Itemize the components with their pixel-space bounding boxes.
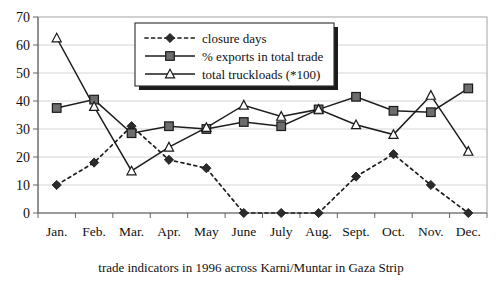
data-point (239, 118, 248, 127)
x-axis-ticks (38, 213, 487, 218)
legend-sample-marker-2 (166, 52, 175, 61)
data-point (127, 129, 136, 138)
chart-canvas: 010203040506070 Jan.Feb.Mar.Apr.MayJuneJ… (0, 0, 502, 293)
chart-legend: closure days% exports in total tradetota… (135, 23, 338, 90)
x-axis-labels: Jan.Feb.Mar.Apr.MayJuneJulyAug.Sept.Oct.… (46, 224, 481, 239)
x-axis-tick-label: Jan. (46, 224, 67, 239)
y-axis-tick-label: 30 (16, 122, 30, 137)
legend-label-2: % exports in total trade (202, 49, 324, 64)
y-axis-tick-label: 0 (23, 206, 30, 221)
legend-label-3: total truckloads (*100) (202, 67, 320, 82)
data-point (52, 180, 61, 189)
series-line-1 (57, 126, 469, 213)
data-point (239, 100, 248, 109)
x-axis-tick-label: Oct. (382, 224, 405, 239)
x-axis-tick-label: Aug. (305, 224, 332, 239)
y-axis-tick-label: 60 (16, 38, 30, 53)
y-axis-tick-label: 10 (16, 178, 30, 193)
x-axis-tick-label: Dec. (456, 224, 481, 239)
x-axis-tick-label: Apr. (157, 224, 181, 239)
data-point (202, 164, 211, 173)
x-axis-tick-label: Mar. (119, 224, 144, 239)
data-point (165, 122, 174, 131)
chart-caption: trade indicators in 1996 across Karni/Mu… (98, 260, 403, 275)
y-axis-tick-label: 50 (16, 66, 30, 81)
data-point (427, 108, 436, 117)
x-axis-tick-label: May (194, 224, 219, 239)
x-axis-tick-label: June (231, 224, 256, 239)
data-point (352, 93, 361, 102)
x-axis-tick-label: Nov. (418, 224, 444, 239)
legend-label-1: closure days (202, 31, 267, 46)
data-point (351, 120, 360, 129)
y-axis-tick-label: 70 (16, 10, 30, 25)
data-point (52, 33, 61, 42)
data-point (127, 166, 136, 175)
data-point (52, 104, 61, 113)
x-axis-tick-label: July (270, 224, 293, 239)
x-axis-tick-label: Feb. (82, 224, 106, 239)
data-point (426, 91, 435, 100)
y-axis-labels: 010203040506070 (16, 10, 30, 221)
x-axis-tick-label: Sept. (342, 224, 369, 239)
data-point (277, 208, 286, 217)
chart-figure: 010203040506070 Jan.Feb.Mar.Apr.MayJuneJ… (0, 0, 502, 293)
data-point (389, 107, 398, 116)
data-point (464, 84, 473, 93)
data-point (277, 122, 286, 131)
y-axis-tick-label: 20 (16, 150, 30, 165)
data-point (164, 142, 173, 151)
y-axis-tick-label: 40 (16, 94, 30, 109)
data-point (314, 208, 323, 217)
